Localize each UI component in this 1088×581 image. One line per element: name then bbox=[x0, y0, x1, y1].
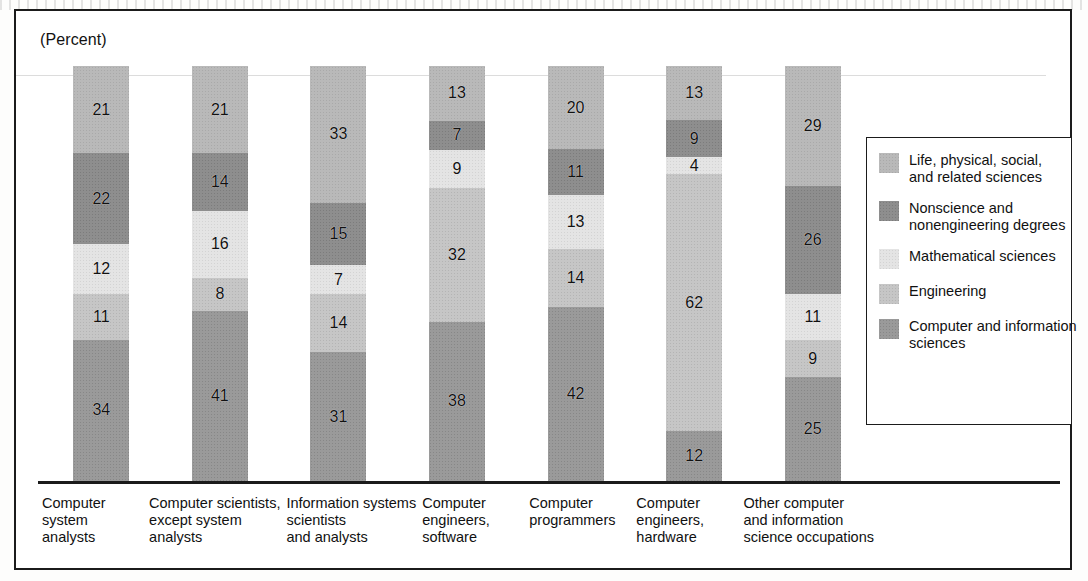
x-axis-label: Computer scientists,except systemanalyst… bbox=[149, 495, 286, 546]
stacked-bar: 2122121134 bbox=[73, 66, 129, 481]
legend-swatch-icon bbox=[879, 201, 899, 221]
percent-unit-label: (Percent) bbox=[40, 31, 107, 49]
bar-segment: 13 bbox=[429, 66, 485, 121]
legend-label-line: Life, physical, social, bbox=[909, 152, 1042, 169]
bar-column: 331571431 bbox=[279, 66, 398, 481]
bar-segment: 4 bbox=[666, 157, 722, 174]
legend-swatch-icon bbox=[879, 249, 899, 269]
bar-segment: 21 bbox=[73, 66, 129, 153]
x-axis-label-line: hardware bbox=[636, 529, 737, 546]
x-axis-label: Other computerand informationscience occ… bbox=[743, 495, 880, 546]
stacked-bar: 331571431 bbox=[310, 66, 366, 481]
legend-swatch-icon bbox=[879, 153, 899, 173]
bar-segment: 38 bbox=[429, 322, 485, 481]
legend-swatch-icon bbox=[879, 319, 899, 339]
bar-segment-value: 11 bbox=[804, 309, 821, 325]
bar-segment-value: 20 bbox=[567, 100, 585, 116]
x-axis-label-line: Computer bbox=[529, 495, 630, 512]
x-axis-label-line: Computer bbox=[636, 495, 737, 512]
bar-segment-value: 14 bbox=[211, 174, 229, 190]
bar-column: 211416841 bbox=[161, 66, 280, 481]
bar-segment-value: 42 bbox=[567, 386, 585, 402]
bar-segment-value: 14 bbox=[330, 315, 348, 331]
legend-label-line: Engineering bbox=[909, 283, 986, 300]
legend-item: Nonscience andnonengineering degrees bbox=[879, 200, 1061, 234]
x-axis-label: Computerengineers,software bbox=[422, 495, 529, 546]
bar-segment: 14 bbox=[310, 294, 366, 352]
bar-segment: 14 bbox=[192, 153, 248, 211]
bar-segment-value: 9 bbox=[690, 131, 699, 147]
x-axis-label: Computersystemanalysts bbox=[42, 495, 149, 546]
bar-segment-value: 13 bbox=[685, 85, 703, 101]
x-axis-label-line: analysts bbox=[42, 529, 143, 546]
bar-segment-value: 12 bbox=[685, 448, 703, 464]
stacked-bar: 13946212 bbox=[666, 66, 722, 481]
x-axis-label-line: software bbox=[422, 529, 523, 546]
chart-legend: Life, physical, social,and related scien… bbox=[866, 137, 1072, 425]
bar-segment-value: 41 bbox=[211, 388, 229, 404]
legend-label-line: and related sciences bbox=[909, 169, 1042, 186]
x-axis-label-line: and analysts bbox=[286, 529, 416, 546]
legend-label: Life, physical, social,and related scien… bbox=[909, 152, 1042, 186]
bar-segment-value: 33 bbox=[330, 126, 348, 142]
bar-segment: 26 bbox=[785, 186, 841, 294]
bar-segment: 42 bbox=[548, 307, 604, 481]
bar-segment: 11 bbox=[785, 294, 841, 340]
bar-segment: 12 bbox=[73, 244, 129, 294]
bar-column: 2011131442 bbox=[516, 66, 635, 481]
bar-segment: 34 bbox=[73, 340, 129, 481]
x-axis-label: Information systemsscientistsand analyst… bbox=[286, 495, 422, 546]
bar-segment: 21 bbox=[192, 66, 248, 153]
bar-segment: 11 bbox=[73, 294, 129, 340]
legend-label-line: sciences bbox=[909, 335, 1077, 352]
x-axis-label-line: engineers, bbox=[636, 512, 737, 529]
legend-label: Engineering bbox=[909, 283, 986, 300]
bar-segment-value: 7 bbox=[453, 127, 462, 143]
x-axis-label-line: Other computer bbox=[743, 495, 874, 512]
bar-segment: 62 bbox=[666, 174, 722, 431]
x-axis-label: Computerengineers,hardware bbox=[636, 495, 743, 546]
bar-segment: 9 bbox=[785, 340, 841, 377]
bar-segment-value: 7 bbox=[334, 272, 343, 288]
bar-segment-value: 8 bbox=[215, 286, 224, 302]
bar-segment-value: 11 bbox=[567, 164, 584, 180]
bar-segment-value: 11 bbox=[93, 309, 110, 325]
x-axis-label-line: programmers bbox=[529, 512, 630, 529]
bar-segment-value: 29 bbox=[804, 118, 822, 134]
bar-segment: 22 bbox=[73, 153, 129, 244]
chart-page: (Percent) 212212113421141684133157143113… bbox=[0, 0, 1088, 581]
legend-label: Mathematical sciences bbox=[909, 248, 1056, 265]
bar-segment-value: 25 bbox=[804, 421, 822, 437]
x-axis-line bbox=[38, 481, 1060, 484]
bar-column: 292611925 bbox=[753, 66, 872, 481]
legend-item: Mathematical sciences bbox=[879, 248, 1061, 269]
x-axis-label-line: science occupations bbox=[743, 529, 874, 546]
x-axis-label-line bbox=[529, 529, 630, 546]
legend-item: Life, physical, social,and related scien… bbox=[879, 152, 1061, 186]
legend-label: Nonscience andnonengineering degrees bbox=[909, 200, 1065, 234]
bar-segment: 13 bbox=[666, 66, 722, 120]
x-axis-label-line: Computer bbox=[422, 495, 523, 512]
x-axis-label-line: and information bbox=[743, 512, 874, 529]
bar-segment: 14 bbox=[548, 249, 604, 307]
bar-segment-value: 9 bbox=[808, 351, 817, 367]
x-axis-label-line: Computer bbox=[42, 495, 143, 512]
x-axis-label-line: Information systems bbox=[286, 495, 416, 512]
bar-segment-value: 38 bbox=[448, 393, 466, 409]
bar-segment: 41 bbox=[192, 311, 248, 481]
bar-segment-value: 26 bbox=[804, 232, 822, 248]
legend-item: Computer and informationsciences bbox=[879, 318, 1061, 352]
bar-segment-value: 4 bbox=[690, 158, 699, 174]
legend-label-line: Nonscience and bbox=[909, 200, 1065, 217]
bar-segment: 11 bbox=[548, 149, 604, 195]
bar-segment: 16 bbox=[192, 211, 248, 277]
bar-segment: 12 bbox=[666, 431, 722, 481]
stacked-bar-group: 2122121134211416841331571431137932382011… bbox=[42, 66, 872, 481]
bar-segment-value: 31 bbox=[330, 409, 348, 425]
bar-segment-value: 13 bbox=[448, 85, 466, 101]
x-axis-label-line: engineers, bbox=[422, 512, 523, 529]
legend-label-line: Computer and information bbox=[909, 318, 1077, 335]
bar-segment: 7 bbox=[429, 121, 485, 150]
legend-label: Computer and informationsciences bbox=[909, 318, 1077, 352]
bar-segment-value: 16 bbox=[211, 236, 229, 252]
